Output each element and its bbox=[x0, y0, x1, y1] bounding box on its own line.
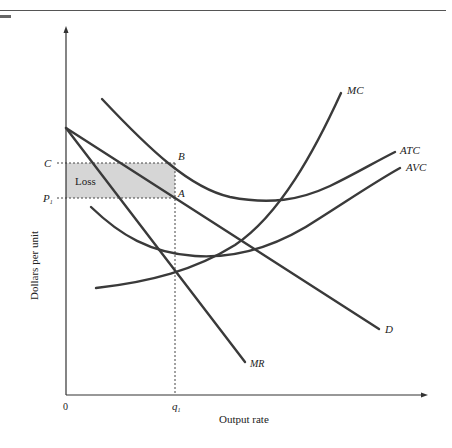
mc-label: MC bbox=[346, 84, 364, 96]
x-axis-title: Output rate bbox=[219, 413, 269, 425]
y-axis-title: Dollars per unit bbox=[28, 231, 40, 300]
loss-label: Loss bbox=[75, 175, 96, 187]
d-label: D bbox=[384, 323, 393, 335]
atc-label: ATC bbox=[399, 144, 420, 156]
x-axis-arrow-icon bbox=[421, 393, 428, 398]
origin-label: 0 bbox=[63, 401, 68, 412]
cost-revenue-diagram: C P1 0 q1 Output rate Dollars per unit L… bbox=[0, 0, 452, 448]
point-b-label: B bbox=[178, 150, 185, 162]
c-tick-label: C bbox=[44, 157, 52, 169]
demand-curve bbox=[66, 128, 379, 329]
p1-tick-label: P1 bbox=[42, 192, 53, 205]
mr-label: MR bbox=[249, 358, 264, 369]
y-axis-arrow-icon bbox=[64, 26, 69, 33]
avc-label: AVC bbox=[405, 161, 427, 173]
point-a-label: A bbox=[177, 187, 185, 199]
q1-tick-label: q1 bbox=[172, 400, 181, 413]
